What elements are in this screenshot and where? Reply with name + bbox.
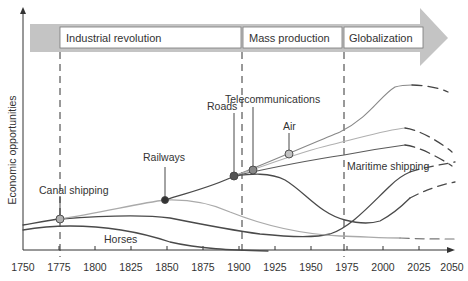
marker-air	[285, 150, 293, 158]
y-axis-arrow-icon	[20, 7, 26, 14]
marker-telecom	[249, 166, 257, 174]
label-telecom: Telecommunications	[225, 93, 320, 105]
marker-roads	[230, 172, 238, 180]
y-axis-label: Economic opportunities	[6, 95, 18, 204]
tick-1750: 1750	[11, 261, 35, 273]
tick-2000: 2000	[371, 261, 395, 273]
marker-canal-shipping	[56, 215, 64, 223]
tick-1775: 1775	[47, 261, 71, 273]
line-roads	[165, 174, 410, 223]
tick-1825: 1825	[119, 261, 143, 273]
chart-canvas: Industrial revolution Mass production Gl…	[0, 0, 468, 281]
line-canal-shipping	[23, 172, 410, 237]
tick-2050: 2050	[440, 261, 464, 273]
tick-1875: 1875	[191, 261, 215, 273]
tick-1975: 1975	[335, 261, 359, 273]
x-tick-labels: 1750 1775 1800 1825 1850 1875 1900 1925 …	[11, 261, 464, 273]
era-label-global: Globalization	[349, 32, 413, 44]
tick-1800: 1800	[83, 261, 107, 273]
tick-1925: 1925	[263, 261, 287, 273]
label-railways: Railways	[143, 151, 185, 163]
era-label-mass: Mass production	[249, 32, 330, 44]
marker-railways	[162, 197, 169, 204]
tick-1850: 1850	[155, 261, 179, 273]
era-boundaries	[60, 52, 344, 257]
tick-1950: 1950	[299, 261, 323, 273]
line-telecom-projection	[412, 85, 448, 92]
label-air: Air	[283, 120, 296, 132]
tick-1900: 1900	[227, 261, 251, 273]
label-maritime-shipping: Maritime shipping	[347, 160, 429, 172]
era-arrow: Industrial revolution Mass production Gl…	[30, 8, 448, 66]
tick-2025: 2025	[407, 261, 431, 273]
label-horses: Horses	[104, 233, 137, 245]
line-roads-projection	[410, 182, 455, 198]
line-railways-projection	[400, 238, 455, 239]
era-label-industrial: Industrial revolution	[66, 32, 161, 44]
line-air-projection	[405, 128, 452, 152]
label-canal-shipping: Canal shipping	[39, 184, 109, 196]
chart: Industrial revolution Mass production Gl…	[0, 0, 468, 281]
x-axis-arrow-icon	[447, 247, 455, 253]
